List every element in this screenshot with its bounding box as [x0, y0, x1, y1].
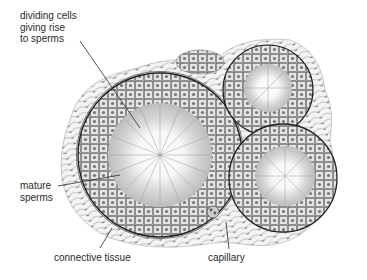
lower-right-tubule [229, 124, 337, 232]
label-mature-sperms: mature sperms [20, 180, 53, 203]
label-connective-tissue: connective tissue [54, 252, 131, 264]
upper-right-tubule [223, 45, 313, 135]
cell-cluster [176, 50, 224, 74]
label-capillary: capillary [208, 252, 245, 264]
capillary-vessel [207, 206, 219, 218]
sperm-tails [110, 105, 210, 205]
label-dividing-cells: dividing cells giving rise to sperms [20, 10, 77, 45]
